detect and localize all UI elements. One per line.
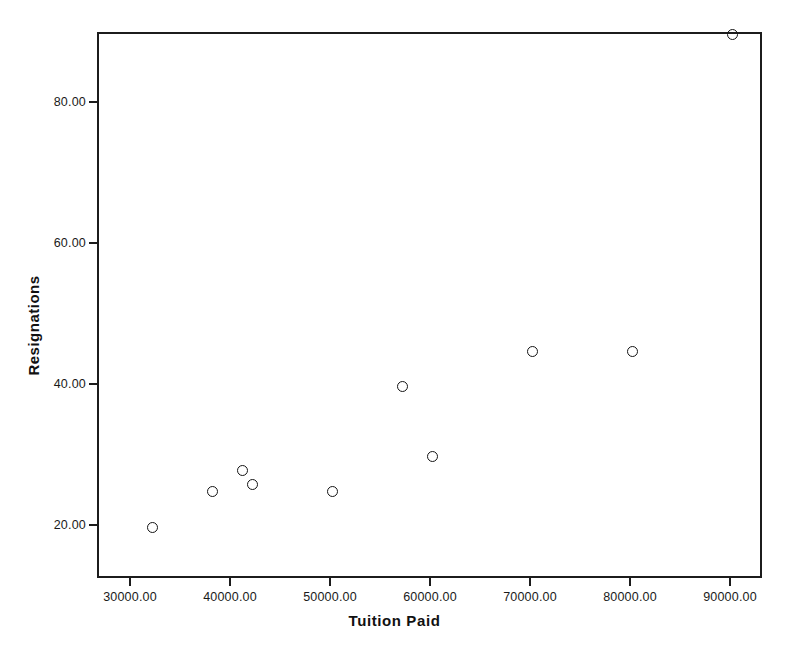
data-point-marker xyxy=(627,346,638,357)
y-axis-tick-mark xyxy=(89,524,97,526)
x-axis-tick-label: 80000.00 xyxy=(603,590,657,604)
x-axis-tick-mark xyxy=(229,578,231,586)
x-axis-tick-label: 30000.00 xyxy=(103,590,157,604)
data-point-marker xyxy=(327,486,338,497)
data-point-marker xyxy=(727,29,738,40)
y-axis-tick-mark xyxy=(89,101,97,103)
x-axis-tick-label: 60000.00 xyxy=(403,590,457,604)
data-point-marker xyxy=(207,486,218,497)
x-axis-title: Tuition Paid xyxy=(0,612,789,629)
y-axis-tick-label: 80.00 xyxy=(54,95,86,109)
y-axis-tick-label: 20.00 xyxy=(54,518,86,532)
data-point-marker xyxy=(427,451,438,462)
y-axis-tick-label: 60.00 xyxy=(54,236,86,250)
data-point-marker xyxy=(527,346,538,357)
data-point-marker xyxy=(147,522,158,533)
data-point-marker xyxy=(397,381,408,392)
x-axis-tick-label: 40000.00 xyxy=(203,590,257,604)
data-point-marker xyxy=(247,479,258,490)
x-axis-tick-mark xyxy=(429,578,431,586)
y-axis-title: Resignations xyxy=(16,0,50,651)
scatter-plot-figure: Resignations 20.0040.0060.0080.00 30000.… xyxy=(0,0,789,651)
y-axis-tick-mark xyxy=(89,383,97,385)
y-axis-tick-mark xyxy=(89,242,97,244)
x-axis-tick-label: 70000.00 xyxy=(503,590,557,604)
y-axis-tick-label: 40.00 xyxy=(54,377,86,391)
plot-data-area xyxy=(99,34,760,576)
plot-frame xyxy=(97,32,762,578)
x-axis-tick-mark xyxy=(629,578,631,586)
data-point-marker xyxy=(237,465,248,476)
x-axis-tick-mark xyxy=(729,578,731,586)
x-axis-tick-mark xyxy=(329,578,331,586)
x-axis-tick-label: 90000.00 xyxy=(703,590,757,604)
x-axis-tick-mark xyxy=(129,578,131,586)
y-axis-title-label: Resignations xyxy=(25,275,42,375)
x-axis-tick-label: 50000.00 xyxy=(303,590,357,604)
x-axis-tick-mark xyxy=(529,578,531,586)
